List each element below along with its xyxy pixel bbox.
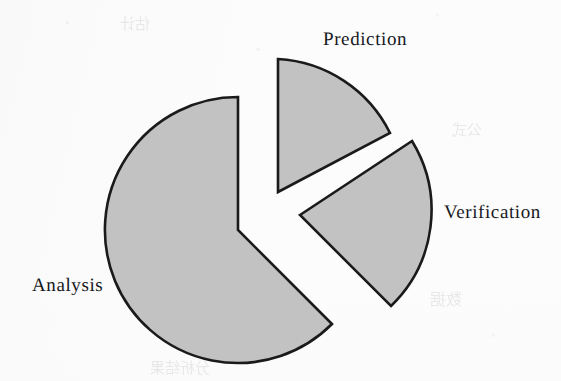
pie-chart-figure: 估计 公式 数据 分析结果 Prediction Verification An… xyxy=(0,0,561,381)
pie-chart-graphic xyxy=(0,0,561,381)
pie-label-prediction: Prediction xyxy=(323,30,407,49)
pie-label-verification: Verification xyxy=(444,203,541,222)
pie-label-analysis: Analysis xyxy=(32,276,103,295)
